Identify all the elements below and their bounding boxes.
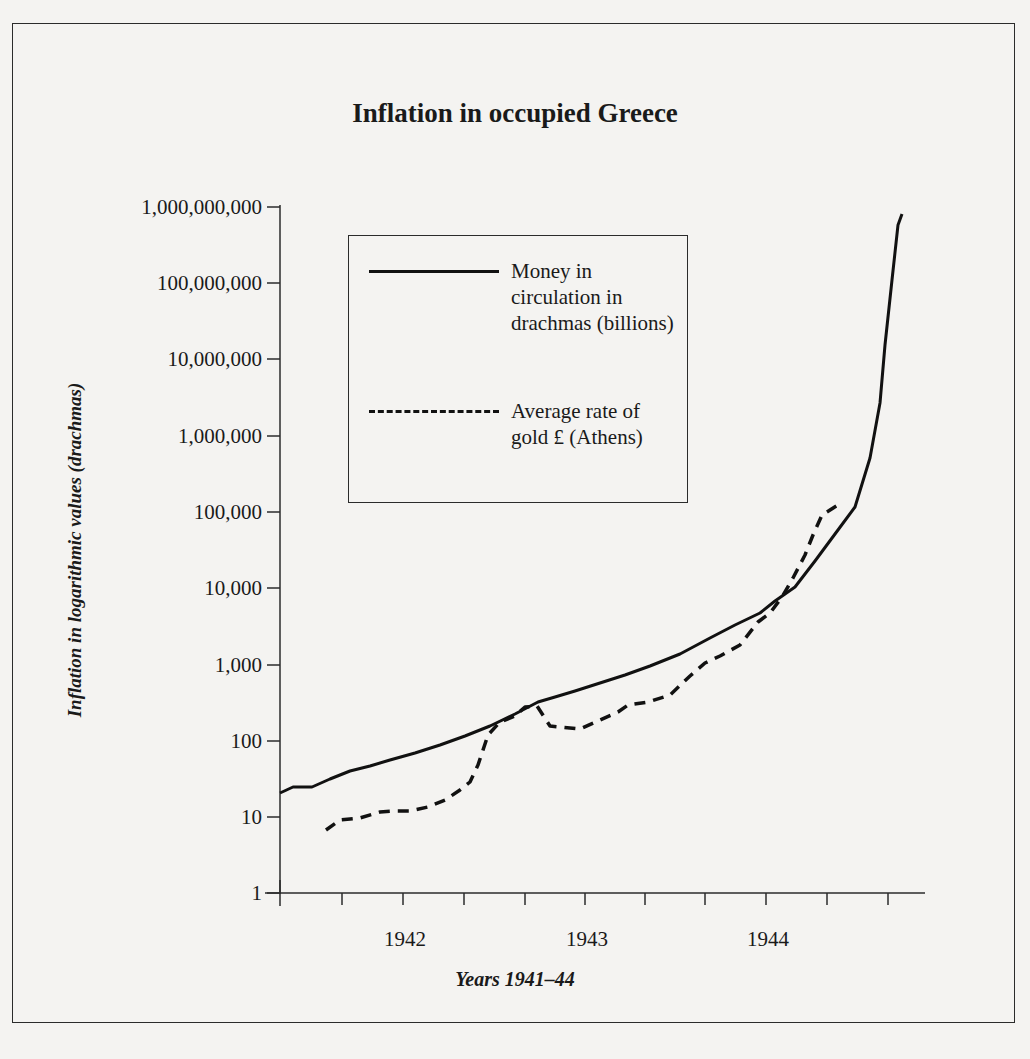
plot-area bbox=[0, 0, 1030, 1059]
chart-legend: Money in circulation in drachmas (billio… bbox=[348, 235, 688, 503]
dashed-line-swatch-icon bbox=[369, 410, 499, 413]
legend-label-money: Money in circulation in drachmas (billio… bbox=[511, 258, 681, 336]
solid-line-swatch-icon bbox=[369, 270, 499, 273]
legend-label-gold: Average rate of gold £ (Athens) bbox=[511, 398, 681, 450]
series-gold-line bbox=[326, 505, 838, 830]
